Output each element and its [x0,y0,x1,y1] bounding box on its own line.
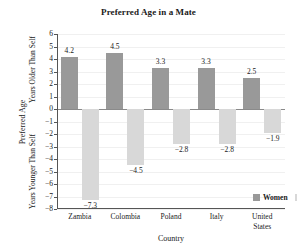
y-axis-title: Preferred Age [17,62,28,182]
x-category-label: United States [236,212,288,231]
x-category-label: Zambia [54,212,106,222]
bar-men-1 [127,109,144,165]
bar-value-label: 2.5 [234,68,269,76]
bar-value-label: 3.3 [143,58,178,66]
y-tick-label: −4 [45,155,53,163]
legend-item-women: Women [253,194,288,202]
y-tick-label: −2 [45,130,53,138]
x-category-label: Poland [145,212,197,222]
tick-mark [54,209,57,210]
y-tick-label: −8 [45,205,53,213]
bar-men-0 [82,109,99,200]
bar-men-2 [173,109,190,144]
y-tick-label: 1 [49,93,53,101]
legend: Women Men [253,194,297,202]
y-tick-label: 3 [49,68,53,76]
chart-container: Preferred Age in a Mate Preferred Age Ye… [0,0,297,251]
bar-women-1 [106,53,123,109]
bar-value-label: 3.3 [189,58,224,66]
x-axis-line [57,208,285,209]
bar-women-2 [152,68,169,109]
x-category-label: Italy [191,212,243,222]
y-tick-label: −5 [45,168,53,176]
y-tick-label: −7 [45,193,53,201]
legend-label-women: Women [263,194,288,202]
gridline [57,34,285,35]
chart-title: Preferred Age in a Mate [0,7,297,17]
y-tick-label: 2 [49,80,53,88]
y-tick-label: 4 [49,55,53,63]
x-axis-title: Country [57,234,285,243]
bar-value-label: −1.9 [255,135,290,143]
y-axis-line [57,34,58,209]
bar-men-4 [264,109,281,133]
y-axis-lower-label: Years Younger Than Self [28,134,38,209]
bar-women-4 [243,78,260,109]
legend-item-men: Men [295,194,297,202]
y-tick-label: −3 [45,143,53,151]
bar-men-3 [219,109,236,144]
y-tick-label: −6 [45,180,53,188]
y-tick-label: 6 [49,30,53,38]
legend-swatch-men-icon [295,194,297,201]
y-axis-upper-label: Years Older Than Self [28,36,38,103]
y-tick-label: 0 [49,105,53,113]
bar-value-label: 4.5 [97,43,132,51]
bar-value-label: −4.5 [118,167,153,175]
x-category-label: Colombia [99,212,151,222]
legend-swatch-women-icon [253,194,260,201]
bar-value-label: −2.8 [210,146,245,154]
bar-women-3 [198,68,215,109]
bar-women-0 [61,57,78,110]
plot-area: 6543210−1−2−3−4−5−6−7−8 4.24.53.33.32.5−… [57,34,285,209]
bar-value-label: −2.8 [164,146,199,154]
y-tick-label: −1 [45,118,53,126]
gridline [57,47,285,48]
